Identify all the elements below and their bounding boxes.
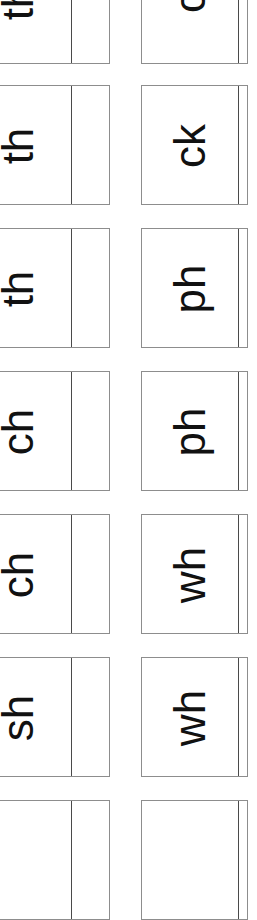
flashcard[interactable]: sh — [0, 657, 110, 777]
flashcard-tab — [73, 86, 91, 204]
flashcard[interactable]: th — [0, 0, 110, 64]
flashcard-tab — [73, 0, 91, 63]
flashcard[interactable]: ch — [0, 371, 110, 491]
flashcard-tab — [240, 0, 248, 63]
flashcard-tab — [73, 229, 91, 347]
flashcard-label: sh — [0, 668, 42, 768]
flashcard[interactable]: c — [141, 0, 248, 64]
flashcard[interactable]: ch — [0, 514, 110, 634]
flashcard-tab — [240, 658, 248, 776]
flashcard-label: ph — [168, 382, 214, 482]
flashcard-label: c — [168, 0, 214, 52]
flashcard[interactable]: th — [0, 228, 110, 348]
flashcard-tab — [240, 801, 248, 919]
flashcard[interactable]: ph — [141, 228, 248, 348]
flashcard-label: ck — [168, 96, 214, 196]
flashcard-tab — [73, 515, 91, 633]
flashcard-label — [0, 811, 42, 911]
flashcard-tab — [240, 86, 248, 204]
flashcard-label — [168, 811, 214, 911]
flashcard-tab — [73, 801, 91, 919]
flashcard-tab — [240, 372, 248, 490]
flashcard[interactable] — [0, 800, 110, 920]
flashcard-label: wh — [168, 668, 214, 768]
flashcard[interactable]: wh — [141, 514, 248, 634]
flashcard-label: th — [0, 96, 42, 196]
flashcard-label: th — [0, 239, 42, 339]
flashcard-label: wh — [168, 525, 214, 625]
flashcard-label: ph — [168, 239, 214, 339]
flashcard-tab — [240, 515, 248, 633]
flashcard-label: ch — [0, 382, 42, 482]
flashcard-tab — [73, 658, 91, 776]
flashcard[interactable]: wh — [141, 657, 248, 777]
flashcard-tab — [73, 372, 91, 490]
flashcard[interactable]: th — [0, 85, 110, 205]
flashcard[interactable]: ck — [141, 85, 248, 205]
flashcard[interactable]: ph — [141, 371, 248, 491]
flashcard-label: ch — [0, 525, 42, 625]
flashcard-tab — [240, 229, 248, 347]
flashcard[interactable] — [141, 800, 248, 920]
flashcard-label: th — [0, 0, 42, 52]
